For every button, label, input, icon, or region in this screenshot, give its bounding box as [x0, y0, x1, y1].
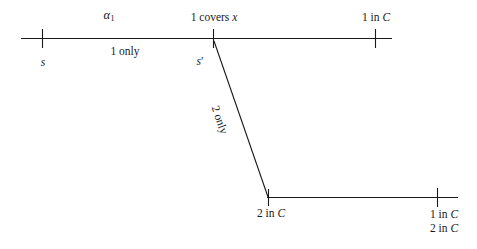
label-bottom-right-stack: 1 in C 2 in C	[430, 207, 458, 235]
covers-text: 1 covers	[191, 11, 233, 23]
diagram-lines	[0, 0, 477, 249]
alpha-symbol: α	[103, 8, 110, 22]
set-variable-c: C	[450, 222, 458, 234]
two-in-text: 2 in	[257, 207, 277, 219]
set-variable-c: C	[450, 208, 458, 220]
label-1-only: 1 only	[110, 45, 139, 58]
label-bottom-1-in-c: 1 in C	[430, 207, 458, 221]
two-in-text: 2 in	[430, 222, 450, 234]
set-variable-c: C	[277, 207, 285, 219]
alpha-subscript: 1	[110, 14, 115, 23]
label-top-1-in-c: 1 in C	[362, 11, 390, 24]
one-in-text: 1 in	[362, 11, 382, 23]
diagram-canvas: α1 1 covers x 1 in C s 1 only s′ 2 only …	[0, 0, 477, 249]
label-bottom-2-in-c: 2 in C	[257, 207, 285, 220]
label-1-covers-x: 1 covers x	[191, 11, 238, 24]
label-alpha-1: α1	[103, 8, 114, 23]
label-point-s: s	[41, 56, 45, 69]
one-in-text: 1 in	[430, 208, 450, 220]
s-prime-mark: ′	[201, 55, 204, 67]
label-bottom-2-in-c-second: 2 in C	[430, 221, 458, 235]
set-variable-c: C	[382, 11, 390, 23]
covers-variable-x: x	[232, 11, 237, 23]
label-point-s-prime: s′	[197, 55, 204, 68]
